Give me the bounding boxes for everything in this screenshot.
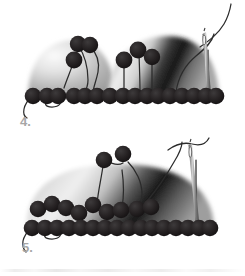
step4-base-bead-row: [25, 88, 225, 105]
step-4-label: 4.: [20, 114, 31, 129]
scan-artifact-line: [0, 269, 245, 272]
step-5-label: 5.: [22, 240, 33, 255]
step-4-figure: [24, 4, 231, 118]
diagram-canvas: 4. 5.: [0, 0, 245, 276]
step5-base-bead-row: [24, 220, 219, 237]
step-5-figure: [23, 138, 219, 252]
beadwork-illustration: [0, 0, 245, 276]
